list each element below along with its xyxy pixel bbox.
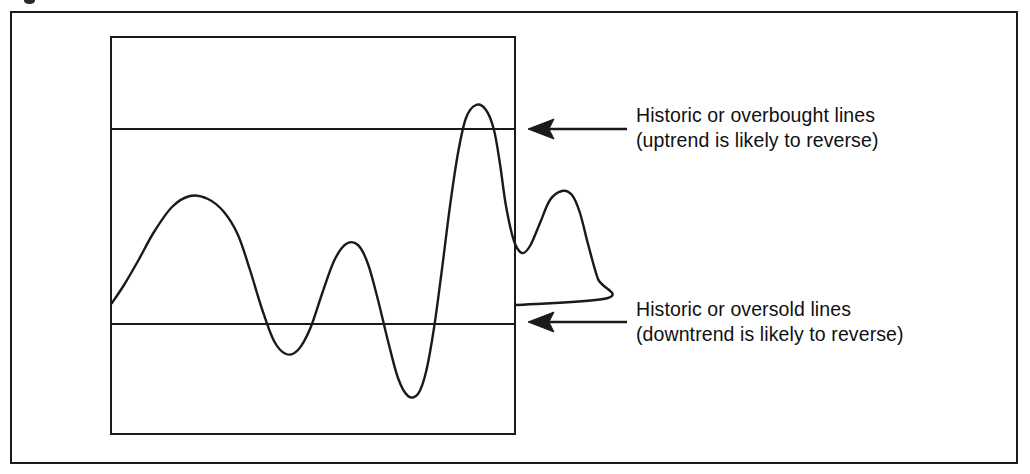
left-arrow-icon-overbought [528, 119, 627, 139]
callout-oversold-line-1: Historic or oversold lines [636, 297, 904, 322]
callout-overbought: Historic or overbought lines (uptrend is… [636, 103, 879, 153]
callout-overbought-line-2: (uptrend is likely to reverse) [636, 128, 879, 153]
callout-oversold: Historic or oversold lines (downtrend is… [636, 297, 904, 347]
annotation-arrows-layer [0, 0, 1030, 474]
technical-analysis-figure: Historic or overbought lines (uptrend is… [0, 0, 1030, 474]
left-arrow-icon-oversold [528, 312, 627, 332]
callout-overbought-line-1: Historic or overbought lines [636, 103, 879, 128]
callout-oversold-line-2: (downtrend is likely to reverse) [636, 322, 904, 347]
